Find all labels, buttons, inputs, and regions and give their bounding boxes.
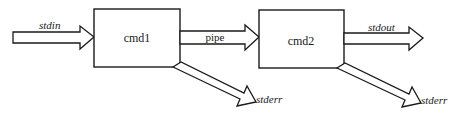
- stderr2-arrow: stderr: [337, 63, 448, 107]
- pipe-arrow: pipe: [180, 25, 259, 50]
- stdout-arrow: stdout: [344, 21, 423, 50]
- cmd2-node: cmd2: [259, 10, 344, 68]
- stdin-arrow: stdin: [13, 19, 94, 49]
- cmd2-label: cmd2: [288, 34, 315, 48]
- stderr2-label: stderr: [421, 94, 448, 106]
- stdout-label: stdout: [368, 21, 396, 33]
- stderr1-label: stderr: [256, 93, 283, 105]
- cmd1-label: cmd1: [124, 31, 151, 45]
- pipeline-diagram: stdin cmd1 pipe stderr cmd2 stdout: [0, 0, 454, 113]
- stdin-label: stdin: [39, 19, 61, 31]
- cmd1-node: cmd1: [94, 9, 180, 67]
- pipe-label: pipe: [206, 31, 225, 43]
